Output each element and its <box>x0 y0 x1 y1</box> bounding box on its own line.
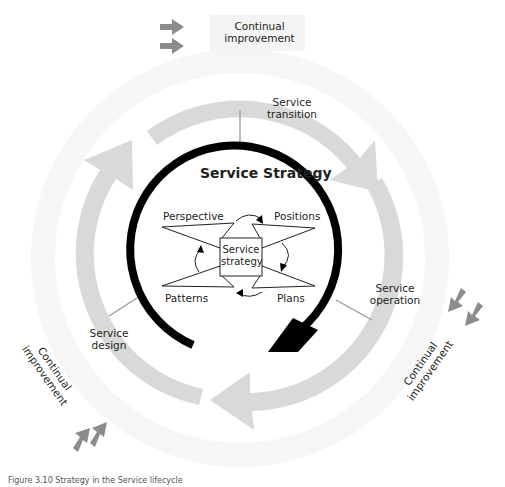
figure-caption: Figure 3.10 Strategy in the Service life… <box>8 476 183 485</box>
positions-label: Positions <box>274 210 320 222</box>
label-line: operation <box>365 294 425 306</box>
label-line: Service <box>84 327 134 339</box>
service-operation-label: Service operation <box>365 282 425 306</box>
perspective-label: Perspective <box>163 210 224 222</box>
arrow-right-icon <box>160 19 184 35</box>
arrow-right-icon <box>160 38 184 54</box>
service-transition-label: Service transition <box>262 96 322 120</box>
patterns-label: Patterns <box>165 292 208 304</box>
label-line: improvement <box>222 32 297 44</box>
connector-design <box>109 296 140 316</box>
label-line: Service <box>365 282 425 294</box>
continual-improvement-top-label: Continual improvement <box>222 20 297 44</box>
design-arc <box>76 140 203 405</box>
service-strategy-title: Service Strategy <box>200 165 280 182</box>
plans-label: Plans <box>277 292 305 304</box>
improvement-arrows-left <box>73 422 107 452</box>
improvement-arrows-right <box>448 288 483 326</box>
title-text: Service Strategy <box>200 165 280 182</box>
label-line: transition <box>262 108 322 120</box>
label-line: Service <box>262 96 322 108</box>
arrow-down-left-icon <box>465 302 483 326</box>
label-line: Continual <box>222 20 297 32</box>
arrow-up-right-icon <box>90 422 107 447</box>
arrow-down-left-icon <box>448 288 466 312</box>
label-line: design <box>84 339 134 351</box>
arrow-up-right-icon <box>73 428 90 452</box>
service-design-label: Service design <box>84 327 134 351</box>
improvement-arrows-top <box>160 19 184 54</box>
service-strategy-box-label: Service strategy <box>221 244 261 268</box>
